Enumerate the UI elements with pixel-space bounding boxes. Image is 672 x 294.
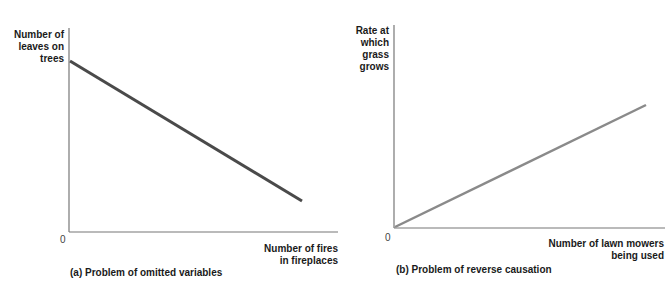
- left-data-line: [70, 61, 302, 201]
- left-y-label: Number of leaves on trees: [0, 29, 64, 65]
- right-x-label: Number of lawn mowers being used: [480, 238, 664, 262]
- left-y-label-line: leaves on: [0, 41, 64, 53]
- right-y-label-line: grass: [330, 49, 389, 61]
- right-caption: (b) Problem of reverse causation: [396, 264, 552, 276]
- left-y-label-line: Number of: [0, 29, 64, 41]
- right-data-line: [395, 105, 646, 227]
- left-origin-label: 0: [60, 234, 66, 245]
- left-x-label-line: in fireplaces: [200, 255, 338, 267]
- left-y-label-line: trees: [0, 53, 64, 65]
- right-x-label-line: being used: [480, 250, 664, 262]
- right-y-label-line: grows: [330, 61, 389, 73]
- left-x-label: Number of fires in fireplaces: [200, 243, 338, 267]
- right-origin-label: 0: [385, 232, 391, 243]
- right-y-label: Rate at which grass grows: [330, 25, 389, 73]
- left-x-label-line: Number of fires: [200, 243, 338, 255]
- right-y-label-line: Rate at: [330, 25, 389, 37]
- right-y-label-line: which: [330, 37, 389, 49]
- right-x-label-line: Number of lawn mowers: [480, 238, 664, 250]
- left-caption: (a) Problem of omitted variables: [70, 267, 222, 279]
